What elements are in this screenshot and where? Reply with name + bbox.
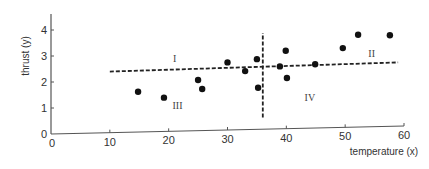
data-point [387,32,393,38]
x-tick-label: 60 [398,129,410,141]
data-point [255,85,261,91]
data-points [135,32,393,101]
axes: 0102030405060 01234 [41,14,410,149]
data-point [312,61,318,67]
x-tick-label: 20 [163,134,175,146]
data-point [355,32,361,38]
data-point [284,75,290,81]
data-point [277,63,283,69]
y-tick-label: 2 [41,76,47,88]
y-axis-label: thrust (y) [20,36,31,75]
data-point [224,59,230,65]
horizontal-dashed-line [110,62,398,71]
x-tick-label: 0 [49,137,55,149]
data-point [161,94,167,100]
region-label-i: I [173,53,176,64]
region-label-iv: IV [305,92,316,103]
y-tick-label: 3 [41,50,47,62]
x-axis-label: temperature (x) [350,146,418,157]
scatter-chart: 0102030405060 01234 IIIIIIIV thrust (y) … [0,0,429,169]
data-point [242,68,248,74]
data-point [283,47,289,53]
x-tick-label: 40 [280,132,292,144]
data-point [254,56,260,62]
reference-lines [110,33,398,118]
y-tick-label: 4 [41,24,47,36]
y-tick-label: 1 [41,102,47,114]
region-labels: IIIIIIIV [172,48,374,112]
data-point [195,77,201,83]
data-point [199,86,205,92]
x-tick-label: 10 [104,136,116,148]
data-point [135,89,141,95]
x-tick-label: 50 [339,130,351,142]
data-point [340,45,346,51]
y-tick-label: 0 [41,128,47,140]
region-label-iii: III [172,100,182,111]
x-tick-label: 30 [221,133,233,145]
region-label-ii: II [368,48,375,59]
y-ticks: 01234 [41,24,54,140]
